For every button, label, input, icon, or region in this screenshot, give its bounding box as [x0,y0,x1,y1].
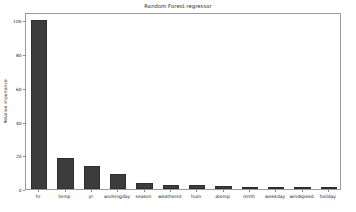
bar [321,187,337,189]
bar [84,166,100,189]
x-tick-label: weathersit [158,194,182,199]
x-tick-label: season [136,194,152,199]
bar [163,185,179,189]
bar [110,174,126,190]
y-tick-label: 100 [13,19,21,24]
y-tick-label: 0 [19,188,22,193]
y-tick-label: 20 [16,154,22,159]
x-tick-label: hum [191,194,201,199]
x-tick-label: atemp [215,194,230,199]
y-tick-label: 60 [16,86,22,91]
y-axis: 020406080100 [0,13,25,190]
x-tick-label: workingday [104,194,130,199]
x-tick-label: mnth [243,194,255,199]
bar [242,187,258,189]
chart-figure: Random Forest regressor Relative importa… [0,0,356,212]
bar [268,187,284,189]
bar [215,186,231,189]
x-tick-mark [117,190,118,192]
x-tick-label: holiday [320,194,336,199]
x-tick-mark [275,190,276,192]
chart-title: Random Forest regressor [0,3,356,9]
bar [57,158,73,189]
x-tick-label: yr [89,194,94,199]
x-tick-mark [91,190,92,192]
x-tick-mark [144,190,145,192]
x-tick-mark [170,190,171,192]
y-tick-label: 80 [16,53,22,58]
x-tick-label: weekday [265,194,285,199]
x-axis: hrtempyrworkingdayseasonweathersithumate… [25,190,341,212]
bars-layer [26,14,340,189]
x-tick-mark [223,190,224,192]
x-tick-label: hr [36,194,41,199]
x-tick-mark [196,190,197,192]
x-tick-mark [302,190,303,192]
plot-area [25,13,341,190]
bar [189,185,205,189]
bar [31,20,47,189]
bar [136,183,152,189]
x-tick-mark [249,190,250,192]
bar [294,187,310,189]
x-tick-label: windspeed [289,194,313,199]
x-tick-mark [65,190,66,192]
x-tick-mark [328,190,329,192]
x-tick-label: temp [59,194,71,199]
y-tick-label: 40 [16,120,22,125]
x-tick-mark [38,190,39,192]
